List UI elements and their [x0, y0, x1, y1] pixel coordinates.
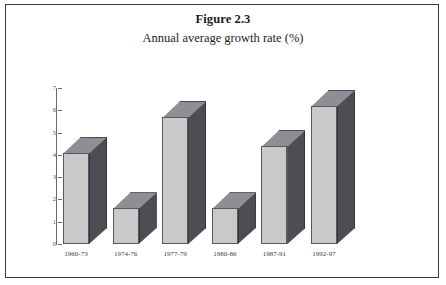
y-tick-mark [58, 199, 62, 200]
bar [212, 192, 256, 244]
x-axis-label: 1980-86 [202, 250, 248, 258]
bar-side-face [287, 130, 305, 244]
x-axis-label: 1992-97 [301, 250, 347, 258]
plot-area: 01234567 1960-731974-761977-791980-86198… [0, 0, 446, 285]
x-axis-label: 1960-73 [53, 250, 99, 258]
y-tick-label: 2 [53, 194, 56, 203]
bar-front-face [63, 153, 89, 244]
bar-front-face [311, 106, 337, 244]
bar [162, 101, 206, 244]
y-tick: 2 [40, 195, 62, 204]
bar [261, 130, 305, 244]
y-tick: 3 [40, 173, 62, 182]
y-tick-label: 1 [53, 217, 56, 226]
y-tick-label: 5 [53, 128, 56, 137]
y-tick: 7 [40, 84, 62, 93]
bar-front-face [261, 146, 287, 244]
bar-front-face [162, 117, 188, 244]
bar-front-face [113, 208, 139, 244]
bar-side-face [337, 90, 355, 244]
x-axis-label: 1977-79 [152, 250, 198, 258]
x-axis-label: 1974-76 [103, 250, 149, 258]
bar-side-face [89, 137, 107, 244]
y-tick-label: 7 [53, 83, 56, 92]
bar-side-face [188, 101, 206, 244]
bar [63, 137, 107, 244]
y-tick-label: 4 [53, 150, 56, 159]
y-tick-mark [58, 177, 62, 178]
bar [113, 192, 157, 244]
x-axis-label: 1987-91 [251, 250, 297, 258]
figure-container: Figure 2.3 Annual average growth rate (%… [0, 0, 446, 285]
y-tick: 1 [40, 218, 62, 227]
y-tick-mark [58, 133, 62, 134]
y-tick-label: 3 [53, 172, 56, 181]
bar-front-face [212, 208, 238, 244]
y-tick-mark [58, 155, 62, 156]
y-tick-mark [58, 222, 62, 223]
y-tick: 0 [40, 240, 62, 249]
y-tick-mark [58, 88, 62, 89]
y-tick-label: 0 [53, 239, 56, 248]
bar [311, 90, 355, 244]
y-tick: 5 [40, 129, 62, 138]
y-tick: 4 [40, 151, 62, 160]
y-tick-mark [58, 244, 62, 245]
y-tick-mark [58, 110, 62, 111]
y-tick: 6 [40, 106, 62, 115]
y-tick-label: 6 [53, 105, 56, 114]
